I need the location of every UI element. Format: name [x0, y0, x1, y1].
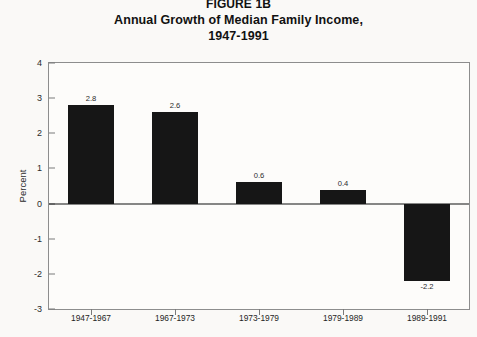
figure-title-line-2: Annual Growth of Median Family Income,: [0, 12, 477, 28]
bar-value-label: 0.6: [254, 171, 265, 180]
x-axis-tick-label: 1979-1989: [323, 313, 363, 323]
y-axis-tick-label: -2: [34, 269, 42, 279]
y-axis-tick-label: 4: [37, 58, 42, 68]
y-axis-tick-mark: [49, 238, 55, 239]
y-axis-tick-mark: [49, 98, 55, 99]
y-axis-tick-label: 3: [37, 93, 42, 103]
bar-value-label: 2.6: [170, 101, 181, 110]
y-axis-tick-label: -1: [34, 234, 42, 244]
y-axis-tick-label: -3: [34, 304, 42, 314]
bar: [404, 204, 450, 281]
x-axis-tick-label: 1967-1973: [155, 313, 195, 323]
y-axis-tick-mark: [49, 309, 55, 310]
figure-title: FIGURE 1B Annual Growth of Median Family…: [0, 0, 477, 44]
y-axis-tick-mark: [49, 133, 55, 134]
y-axis-title: Percent: [17, 170, 28, 203]
bar: [320, 190, 366, 204]
x-axis-tick-label: 1989-1991: [407, 313, 447, 323]
bar: [236, 182, 282, 203]
figure-container: FIGURE 1B Annual Growth of Median Family…: [0, 0, 477, 337]
bar: [152, 112, 198, 203]
bar: [68, 105, 114, 203]
y-axis-tick-label: 2: [37, 128, 42, 138]
bar-value-label: -2.2: [420, 282, 433, 291]
plot-area: 43210-1-2-32.82.60.60.4-2.2: [48, 62, 470, 310]
y-axis-tick-label: 1: [37, 163, 42, 173]
bar-value-label: 0.4: [338, 179, 349, 188]
figure-title-line-3: 1947-1991: [0, 28, 477, 44]
bar-value-label: 2.8: [86, 94, 97, 103]
figure-title-line-1: FIGURE 1B: [0, 0, 477, 12]
y-axis-tick-mark: [49, 273, 55, 274]
y-axis-tick-label: 0: [37, 199, 42, 209]
plot-inner: 43210-1-2-32.82.60.60.4-2.2: [49, 63, 469, 309]
y-axis-tick-mark: [49, 63, 55, 64]
x-axis-tick-label: 1973-1979: [239, 313, 279, 323]
y-axis-tick-mark: [49, 168, 55, 169]
x-axis-tick-label: 1947-1967: [71, 313, 111, 323]
